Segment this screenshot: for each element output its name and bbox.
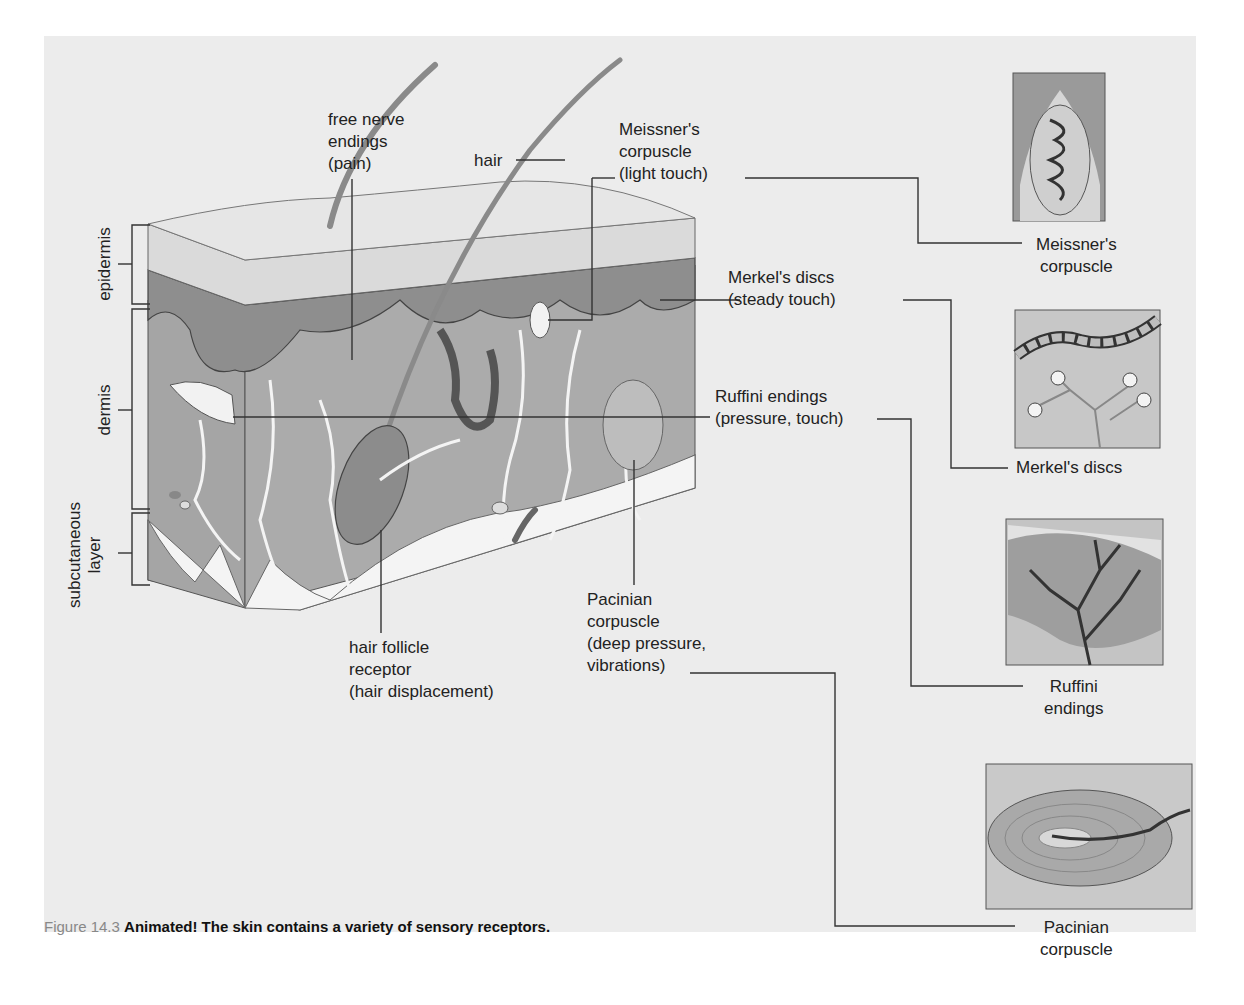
label-free-nerve-endings: free nerve endings (pain) <box>328 109 405 175</box>
inset-label-meissner: Meissner's corpuscle <box>1036 234 1117 278</box>
label-hair: hair <box>474 150 502 172</box>
ruffini-inset <box>1006 519 1163 665</box>
meissner-inset <box>1013 73 1105 221</box>
label-hair-follicle-receptor: hair follicle receptor (hair displacemen… <box>349 637 494 703</box>
figure-caption: Figure 14.3 Animated! The skin contains … <box>44 916 664 937</box>
merkel-inset <box>1015 310 1160 448</box>
label-subcutaneous-layer: subcutaneous layer <box>65 485 105 625</box>
figure-number: Figure 14.3 <box>44 918 120 935</box>
label-pacinian: Pacinian corpuscle (deep pressure, vibra… <box>587 589 706 677</box>
inset-label-ruffini: Ruffini endings <box>1044 676 1104 720</box>
layer-brackets <box>118 225 150 585</box>
figure-title: Animated! <box>124 918 197 935</box>
label-meissner: Meissner's corpuscle (light touch) <box>619 119 708 185</box>
inset-label-pacinian: Pacinian corpuscle <box>1040 917 1113 961</box>
label-ruffini: Ruffini endings (pressure, touch) <box>715 386 844 430</box>
figure-caption-text: The skin contains a variety of sensory r… <box>202 918 550 935</box>
inset-label-merkel: Merkel's discs <box>1016 457 1122 479</box>
label-merkel: Merkel's discs (steady touch) <box>728 267 836 311</box>
label-dermis: dermis <box>95 372 115 448</box>
label-epidermis: epidermis <box>95 225 115 303</box>
pacinian-inset <box>986 764 1192 909</box>
